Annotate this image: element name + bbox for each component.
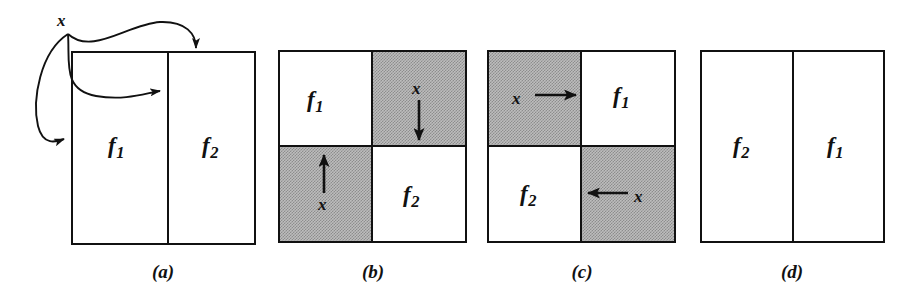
panel-d-label-f1: f1 [827,134,843,162]
panel-b-label-x-top-right: x [412,80,421,97]
figure-canvas: f1 f2 x (a) f1 f2 x x (b) f1 [0,0,920,303]
panel-b-label-f2: f2 [403,183,419,211]
panel-a-caption: (a) [133,262,193,281]
panel-c-caption: (c) [552,262,612,281]
panel-d-caption: (d) [762,262,822,281]
panel-b-label-f1: f1 [307,88,323,116]
panel-c-label-f1: f1 [613,84,629,112]
panel-b-label-x-bottom-left: x [318,196,327,213]
panel-c-label-f2: f2 [520,182,536,210]
panel-b-row-divider [278,145,467,147]
panel-a-label-f2: f2 [202,134,218,162]
panel-a-frame [71,51,256,245]
panel-b-caption: (b) [343,262,403,281]
panel-a-label-f1: f1 [108,134,124,162]
panel-a-label-x: x [57,12,66,29]
panel-c-label-x-top-left: x [512,90,521,107]
panel-a-curve-left [36,34,68,141]
panel-d-column-divider [792,50,794,243]
panel-c-label-x-bottom-right: x [634,188,643,205]
panel-c-row-divider [487,145,676,147]
panel-a-curve-top [68,22,196,48]
panel-a-column-divider [167,51,169,245]
panel-d-label-f2: f2 [733,134,749,162]
